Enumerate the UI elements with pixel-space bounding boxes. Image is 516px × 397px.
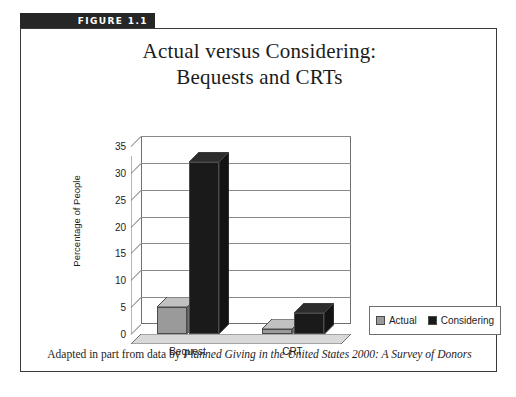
chart-title-line1: Actual versus Considering: (143, 39, 377, 63)
y-tick-label: 0 (120, 329, 126, 340)
chart-legend: Actual Considering (369, 306, 501, 335)
legend-label-actual: Actual (389, 315, 417, 326)
bar-chart: Percentage of People 05101520253035 Bequ… (37, 103, 482, 333)
figure-caption: Adapted in part from data by Planned Giv… (21, 348, 498, 360)
bar-front-face (262, 329, 292, 334)
bar-side-face (324, 313, 334, 334)
bar-front-face (157, 307, 187, 334)
bar-considering-bequest (189, 162, 219, 334)
bar-actual-crt (262, 329, 292, 334)
legend-label-considering: Considering (441, 315, 494, 326)
caption-source-title: Planned Giving in the United States 2000… (183, 348, 471, 360)
y-tick-label: 35 (115, 141, 126, 152)
legend-item-considering: Considering (428, 315, 494, 326)
y-tick-label: 20 (115, 221, 126, 232)
figure-panel: FIGURE 1.1 Actual versus Considering: Be… (0, 0, 516, 397)
caption-prefix: Adapted in part from data by (47, 348, 183, 360)
grid-line (141, 163, 351, 164)
grid-line (141, 217, 351, 218)
plot-floor (131, 334, 351, 344)
chart-title: Actual versus Considering: Bequests and … (21, 39, 498, 90)
bar-side-face (219, 162, 229, 334)
legend-item-actual: Actual (376, 315, 417, 326)
bar-actual-bequest (157, 307, 187, 334)
grid-line (141, 270, 351, 271)
bar-considering-crt (294, 313, 324, 334)
y-axis-title: Percentage of People (70, 41, 83, 161)
bar-front-face (189, 162, 219, 334)
plot-back-wall (141, 136, 351, 324)
grid-line (141, 190, 351, 191)
y-tick-label: 10 (115, 275, 126, 286)
y-tick-label: 30 (115, 167, 126, 178)
chart-title-line2: Bequests and CRTs (21, 65, 498, 91)
legend-swatch-actual (376, 316, 385, 325)
legend-swatch-considering (428, 316, 437, 325)
y-tick-label: 5 (120, 302, 126, 313)
y-tick-label: 15 (115, 248, 126, 259)
grid-line (141, 136, 351, 137)
figure-number-label: FIGURE 1.1 (78, 16, 148, 26)
y-tick-label: 25 (115, 194, 126, 205)
grid-line (141, 243, 351, 244)
bar-front-face (294, 313, 324, 334)
plot-area: 05101520253035 BequestCRT (131, 146, 341, 334)
figure-frame: Actual versus Considering: Bequests and … (20, 28, 497, 372)
figure-number-tab: FIGURE 1.1 (20, 13, 155, 29)
